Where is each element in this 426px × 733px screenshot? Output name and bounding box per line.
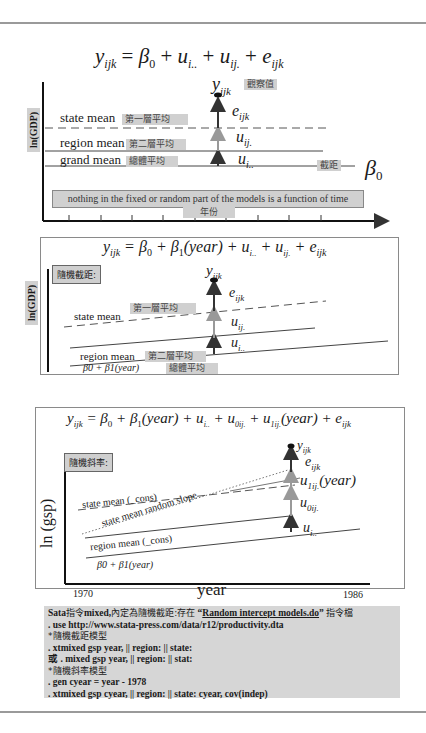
panel3-x-end: 1986 (343, 589, 363, 600)
code-line: . xtmixed gsp cyear, || region: || state… (48, 689, 396, 701)
panel3-e-ijk: eijk (305, 454, 320, 472)
code-line: 或 . mixed gsp year, || region: || stat: (48, 654, 396, 666)
panel3-u0ij: u0ij. (300, 495, 319, 513)
code-comment: *隨機斜率模型 (48, 666, 396, 678)
panel3-grand-mean-label: β0 + β1(year) (97, 559, 153, 570)
panel3-box-label: 隨機斜率: (64, 453, 113, 472)
code-line: . xtmixed gsp year, || region: || state: (48, 643, 396, 655)
code-comment: *隨機截距模型 (48, 631, 396, 643)
stata-code-block: Sata指令mixed,內定為隨機截距:存在 “Random intercept… (44, 606, 400, 698)
do-file-link[interactable]: Random intercept models.do (202, 608, 319, 618)
panel3-u1ij-year: u1ij.(year) (300, 472, 356, 491)
code-line: . gen cyear = year - 1978 (48, 677, 396, 689)
panel3-y-axis-label: ln (gsp) (38, 499, 56, 548)
code-line: . use http://www.stata-press.com/data/r1… (48, 620, 396, 632)
panel3-x-axis-label: year (197, 580, 226, 600)
panel3-x-start: 1970 (73, 588, 93, 599)
code-intro-line: Sata指令mixed,內定為隨機截距:存在 “Random intercept… (48, 608, 396, 620)
panel3-observed: yijk (297, 437, 311, 455)
panel3-u-i: ui.. (303, 520, 317, 538)
